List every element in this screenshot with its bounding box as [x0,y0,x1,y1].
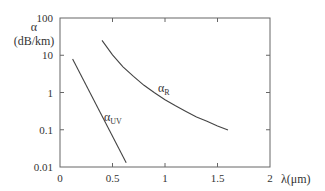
x-tick-label: 0 [57,172,63,184]
y-tick-label: 100 [37,12,54,24]
y-axis-title: α [31,20,38,34]
x-tick-label: 0.5 [106,172,120,184]
y-axis-ticks: 0.010.1110100 [34,12,270,173]
curve-labels: αUVαR [104,81,170,126]
y-tick-label: 0.1 [39,124,53,136]
y-axis-units: (dB/km) [14,34,55,48]
y-tick-label: 10 [42,49,54,61]
x-axis-ticks: 00.511.52 [57,18,273,184]
curves [73,40,228,162]
curve-uv [73,59,127,163]
curve-label-r: αR [158,81,170,97]
curve-label-uv: αUV [104,110,122,126]
x-tick-label: 2 [267,172,273,184]
x-tick-label: 1.5 [211,172,225,184]
attenuation-chart: 00.511.52 0.010.1110100 αUVαR α (dB/km) … [0,0,325,191]
x-axis-title: λ(μm) [281,172,311,186]
y-tick-label: 1 [48,87,54,99]
x-tick-label: 1 [162,172,168,184]
y-tick-label: 0.01 [34,161,53,173]
